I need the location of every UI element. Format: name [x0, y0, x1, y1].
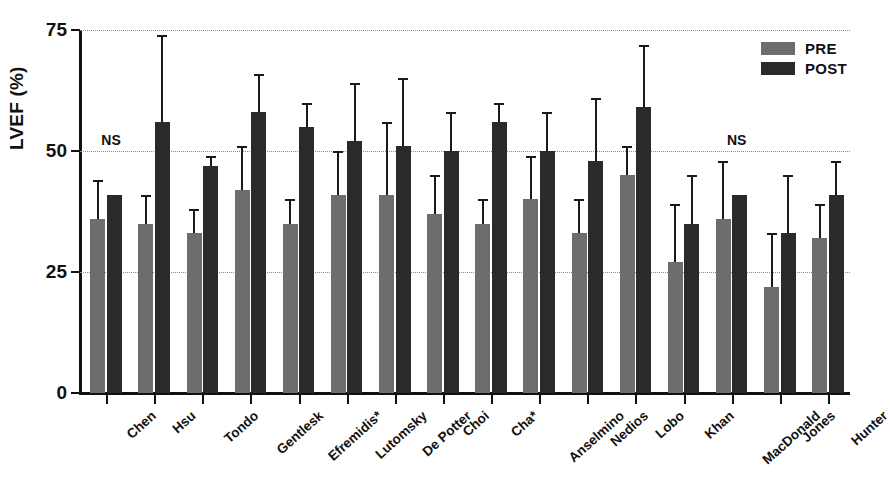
bar-post-lutomsky [347, 141, 362, 393]
x-axis-label-lobo: Lobo [653, 408, 688, 441]
legend-swatch-pre [761, 42, 795, 55]
bar-pre-hunter [812, 238, 827, 393]
bar-pre-efremidis [283, 224, 298, 393]
error-bar-cap [157, 35, 167, 37]
bar-post-macdonald [732, 195, 747, 393]
error-bar-cap [350, 83, 360, 85]
error-bar-line [193, 209, 195, 233]
error-bar-line [643, 45, 645, 108]
y-tick-label-25: 25 [46, 261, 67, 283]
x-tick-khan [684, 395, 686, 404]
y-axis-label: LVEF (%) [6, 66, 28, 150]
bar-pre-choi [427, 214, 442, 393]
bar-post-gentlesk [251, 112, 266, 393]
x-tick-gentlesk [250, 395, 252, 404]
x-tick-chen [106, 395, 108, 404]
error-bar-cap [831, 161, 841, 163]
error-bar-line [289, 199, 291, 223]
error-bar-cap [237, 146, 247, 148]
x-tick-hsu [154, 395, 156, 404]
error-bar-line [434, 175, 436, 214]
legend-item-post: POST [761, 60, 847, 77]
error-bar-cap [206, 156, 216, 158]
error-bar-cap [718, 161, 728, 163]
error-bar-line [787, 175, 789, 233]
error-bar-line [402, 78, 404, 146]
x-axis-label-cha: Cha* [508, 408, 541, 440]
error-bar-line [691, 175, 693, 223]
error-bar-cap [639, 45, 649, 47]
bar-pre-anselmino [523, 199, 538, 393]
bar-post-chen [107, 195, 122, 393]
bar-post-efremidis [299, 127, 314, 393]
bar-pre-hsu [138, 224, 153, 393]
bar-pre-nedios [572, 233, 587, 393]
error-bar-cap [494, 103, 504, 105]
error-bar-cap [141, 195, 151, 197]
error-bar-line [530, 156, 532, 200]
error-bar-cap [302, 103, 312, 105]
error-bar-line [337, 151, 339, 195]
bar-post-tondo [203, 166, 218, 393]
ns-annotation: NS [727, 132, 746, 148]
error-bar-cap [446, 112, 456, 114]
error-bar-line [306, 103, 308, 127]
error-bar-cap [542, 112, 552, 114]
bar-pre-macdonald [716, 219, 731, 393]
legend-label-post: POST [805, 60, 847, 77]
x-axis-label-hsu: Hsu [170, 408, 199, 436]
error-bar-line [819, 204, 821, 238]
error-bar-line [674, 204, 676, 262]
bar-pre-khan [668, 262, 683, 393]
x-tick-jones [780, 395, 782, 404]
bar-post-depotter [396, 146, 411, 393]
bar-post-cha [492, 122, 507, 393]
error-bar-cap [574, 199, 584, 201]
error-bar-line [482, 199, 484, 223]
error-bar-line [161, 35, 163, 122]
error-bar-line [145, 195, 147, 224]
error-bar-cap [430, 175, 440, 177]
error-bar-cap [398, 78, 408, 80]
y-tick-0 [71, 392, 80, 394]
bar-pre-cha [475, 224, 490, 393]
x-tick-hunter [828, 395, 830, 404]
y-tick-25 [71, 271, 80, 273]
bar-pre-chen [90, 219, 105, 393]
gridline-50 [80, 151, 850, 152]
bar-post-khan [684, 224, 699, 393]
error-bar-line [450, 112, 452, 151]
x-tick-anselmino [539, 395, 541, 404]
bar-pre-gentlesk [235, 190, 250, 393]
x-tick-cha [491, 395, 493, 404]
error-bar-line [241, 146, 243, 190]
x-axis-label-khan: Khan [701, 408, 736, 442]
error-bar-cap [382, 122, 392, 124]
error-bar-cap [189, 209, 199, 211]
error-bar-cap [622, 146, 632, 148]
error-bar-cap [783, 175, 793, 177]
error-bar-line [626, 146, 628, 175]
error-bar-line [354, 83, 356, 141]
x-tick-choi [443, 395, 445, 404]
error-bar-line [498, 103, 500, 122]
error-bar-line [578, 199, 580, 233]
error-bar-line [771, 233, 773, 286]
error-bar-cap [670, 204, 680, 206]
gridline-75 [80, 30, 850, 31]
x-tick-lutomsky [347, 395, 349, 404]
error-bar-line [258, 74, 260, 113]
error-bar-line [835, 161, 837, 195]
error-bar-line [546, 112, 548, 151]
legend-label-pre: PRE [805, 40, 837, 57]
error-bar-cap [526, 156, 536, 158]
error-bar-cap [815, 204, 825, 206]
error-bar-line [595, 98, 597, 161]
y-tick-label-0: 0 [56, 382, 67, 404]
bar-post-lobo [636, 107, 651, 393]
y-tick-50 [71, 150, 80, 152]
x-tick-tondo [202, 395, 204, 404]
y-tick-label-50: 50 [46, 140, 67, 162]
bar-pre-jones [764, 287, 779, 393]
